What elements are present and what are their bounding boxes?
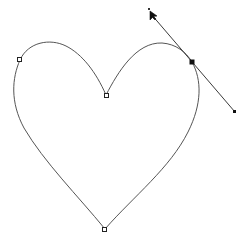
vector-canvas[interactable]: [0, 0, 248, 240]
direct-selection-cursor-icon: [148, 8, 157, 20]
top-cusp-anchor-point[interactable]: [105, 94, 109, 98]
heart-path[interactable]: [14, 42, 199, 229]
bottom-tip-anchor-point[interactable]: [103, 228, 107, 232]
selected-right-anchor-point[interactable]: [190, 60, 194, 64]
path-artboard[interactable]: [0, 0, 248, 240]
direction-handle-point[interactable]: [233, 110, 236, 113]
left-anchor-point[interactable]: [18, 58, 22, 62]
